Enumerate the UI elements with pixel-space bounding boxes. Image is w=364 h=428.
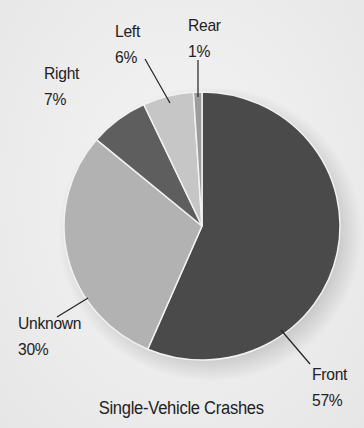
label-left-pct: 6% [115, 45, 140, 71]
label-left-name: Left [115, 19, 140, 45]
label-rear-pct: 1% [188, 39, 221, 65]
label-front-name: Front [312, 362, 347, 388]
label-right: Right 7% [44, 61, 79, 113]
label-right-pct: 7% [44, 87, 79, 113]
label-unknown-name: Unknown [18, 311, 81, 337]
label-right-name: Right [44, 61, 79, 87]
label-unknown: Unknown 30% [18, 311, 81, 363]
label-rear: Rear 1% [188, 13, 221, 65]
label-unknown-pct: 30% [18, 337, 81, 363]
pie-slices [64, 92, 340, 360]
label-left: Left 6% [115, 19, 140, 71]
chart-title: Single-Vehicle Crashes [0, 398, 362, 419]
label-rear-name: Rear [188, 13, 221, 39]
